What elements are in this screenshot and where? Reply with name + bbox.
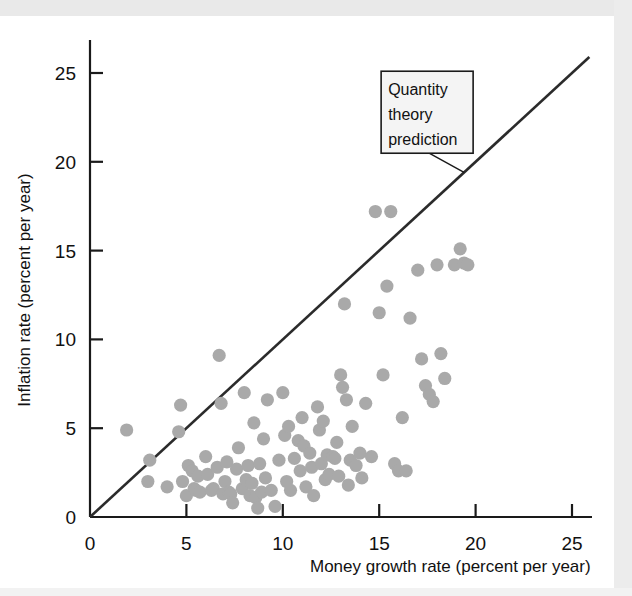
data-point [330,436,343,449]
data-point [328,452,341,465]
data-point [213,349,226,362]
data-point [342,478,355,491]
data-point [369,205,382,218]
x-tick-label: 15 [369,533,390,554]
y-tick-label: 25 [55,63,76,84]
scatter-plot: 05101520250510152025 Money growth rate (… [0,0,632,596]
data-point [251,502,264,515]
annotation-line-3: prediction [388,131,457,148]
data-point [355,471,368,484]
data-point [161,480,174,493]
y-tick-label: 10 [55,329,76,350]
data-point [303,446,316,459]
data-point [384,205,397,218]
data-point [176,475,189,488]
y-axis-label: Inflation rate (percent per year) [15,173,34,406]
data-point [199,450,212,463]
data-point [454,242,467,255]
data-point [400,464,413,477]
annotation-line-2: theory [388,106,432,123]
data-point [259,471,272,484]
data-point [396,411,409,424]
data-point [307,489,320,502]
data-point [174,399,187,412]
data-point [317,414,330,427]
annotation-line-1: Quantity [388,81,448,98]
data-point [427,395,440,408]
x-tick-label: 20 [465,533,486,554]
y-tick-label: 20 [55,152,76,173]
data-point [346,420,359,433]
data-point [403,311,416,324]
data-point [276,386,289,399]
data-point [265,484,278,497]
data-point [415,352,428,365]
y-tick-label: 5 [65,418,76,439]
data-point [247,416,260,429]
data-point [241,459,254,472]
data-point [226,496,239,509]
data-point [311,400,324,413]
data-point [294,464,307,477]
data-point [461,258,474,271]
data-point [284,484,297,497]
data-point [282,420,295,433]
data-point [253,457,266,470]
x-tick-label: 0 [85,533,96,554]
x-axis-label: Money growth rate (percent per year) [310,557,591,576]
data-point [268,500,281,513]
data-point [143,454,156,467]
data-point [434,347,447,360]
figure-canvas: 05101520250510152025 Money growth rate (… [0,0,632,596]
data-point [193,486,206,499]
data-point [438,372,451,385]
data-point [359,397,372,410]
data-point [340,393,353,406]
data-point [232,441,245,454]
annotation-leader-line [429,153,464,172]
x-tick-label: 25 [561,533,582,554]
data-point [353,446,366,459]
data-point [334,368,347,381]
data-point [288,452,301,465]
data-point [120,423,133,436]
y-tick-label: 0 [65,507,76,528]
x-tick-label: 10 [272,533,293,554]
data-point [380,280,393,293]
x-tick-label: 5 [181,533,192,554]
data-point [230,462,243,475]
data-point [261,393,274,406]
data-point [172,425,185,438]
data-point [257,432,270,445]
data-point [215,397,228,410]
data-point [272,454,285,467]
data-point [430,258,443,271]
data-point [336,381,349,394]
data-point [295,411,308,424]
data-point [365,450,378,463]
data-point [238,386,251,399]
data-points [120,205,474,515]
data-point [141,475,154,488]
data-point [376,368,389,381]
data-point [349,459,362,472]
data-point [373,306,386,319]
data-point [411,264,424,277]
y-tick-label: 15 [55,241,76,262]
annotation-callout: Quantity theory prediction [381,71,473,172]
data-point [338,297,351,310]
